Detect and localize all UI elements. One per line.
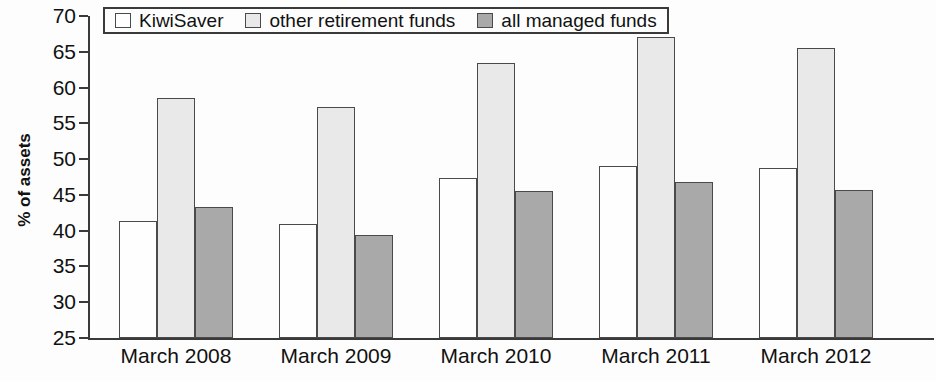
bar: [835, 190, 873, 338]
y-axis-tick-label: 55: [32, 112, 76, 133]
bar: [637, 37, 675, 338]
legend-label: all managed funds: [501, 11, 656, 30]
bar: [515, 191, 553, 338]
y-axis-tick: [79, 230, 88, 232]
y-axis-tick: [79, 301, 88, 303]
bar: [355, 235, 393, 338]
bar: [119, 221, 157, 338]
bar: [675, 182, 713, 338]
bar: [599, 166, 637, 338]
legend-label: other retirement funds: [269, 11, 455, 30]
y-axis-tick-label: 40: [32, 220, 76, 241]
bar-chart: % of assets 70656055504540353025 March 2…: [0, 0, 936, 381]
bar: [477, 63, 515, 338]
y-axis-tick-label: 70: [32, 5, 76, 26]
y-axis-tick: [79, 337, 88, 339]
bar: [279, 224, 317, 338]
x-axis-label: March 2012: [716, 344, 916, 368]
y-axis-tick: [79, 87, 88, 89]
y-axis-tick-label: 60: [32, 77, 76, 98]
bar: [195, 207, 233, 338]
legend-swatch-icon: [245, 13, 261, 28]
y-axis-line: [88, 16, 90, 338]
chart-legend: KiwiSaverother retirement fundsall manag…: [103, 7, 669, 34]
bar: [157, 98, 195, 338]
x-axis-line: [88, 338, 934, 340]
legend-swatch-icon: [115, 13, 131, 28]
y-axis-tick: [79, 194, 88, 196]
legend-item: all managed funds: [477, 11, 656, 30]
plot-area: [88, 16, 934, 338]
y-axis-tick-label: 30: [32, 291, 76, 312]
legend-swatch-icon: [477, 13, 493, 28]
y-axis-tick-label: 35: [32, 255, 76, 276]
y-axis-tick-label: 25: [32, 327, 76, 348]
y-axis-tick: [79, 15, 88, 17]
y-axis-tick-label: 65: [32, 41, 76, 62]
y-axis-tick: [79, 51, 88, 53]
bar: [759, 168, 797, 338]
y-axis-tick-label: 45: [32, 184, 76, 205]
bar: [317, 107, 355, 338]
legend-item: other retirement funds: [245, 11, 455, 30]
bar: [439, 178, 477, 338]
y-axis-tick-labels: 70656055504540353025: [0, 16, 76, 338]
legend-item: KiwiSaver: [115, 11, 223, 30]
y-axis-tick-label: 50: [32, 148, 76, 169]
y-axis-tick: [79, 122, 88, 124]
legend-label: KiwiSaver: [139, 11, 223, 30]
y-axis-tick: [79, 158, 88, 160]
bar: [797, 48, 835, 339]
y-axis-tick: [79, 265, 88, 267]
